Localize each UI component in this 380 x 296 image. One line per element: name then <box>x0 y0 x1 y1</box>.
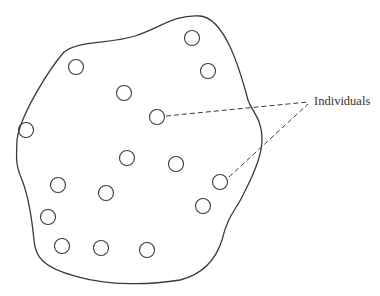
individual-circle <box>140 243 155 258</box>
individual-circle <box>19 123 34 138</box>
individual-circle <box>69 60 84 75</box>
leader-line <box>166 102 308 116</box>
individual-circle <box>99 186 114 201</box>
individual-circle <box>51 178 66 193</box>
leader-lines <box>166 102 308 177</box>
individuals-group <box>19 31 228 258</box>
individual-circle <box>213 175 228 190</box>
individual-circle <box>185 31 200 46</box>
individual-circle <box>169 157 184 172</box>
individual-circle <box>117 86 132 101</box>
population-diagram <box>0 0 380 296</box>
individual-circle <box>196 199 211 214</box>
leader-line <box>229 104 308 177</box>
individual-circle <box>94 241 109 256</box>
population-boundary <box>17 16 262 284</box>
individual-circle <box>201 64 216 79</box>
individual-circle <box>150 110 165 125</box>
individual-circle <box>120 151 135 166</box>
individual-circle <box>55 239 70 254</box>
individuals-label: Individuals <box>314 94 370 109</box>
individual-circle <box>41 210 56 225</box>
